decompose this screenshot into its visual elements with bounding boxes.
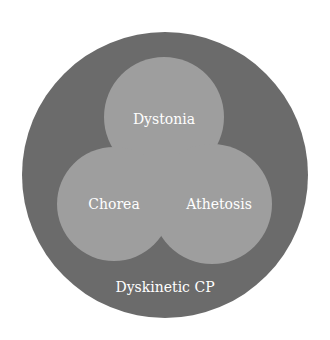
label-dystonia: Dystonia (133, 111, 195, 127)
label-dyskinetic-cp: Dyskinetic CP (115, 279, 214, 295)
venn-diagram: Dystonia Chorea Athetosis Dyskinetic CP (0, 0, 330, 340)
label-chorea: Chorea (88, 196, 139, 212)
label-athetosis: Athetosis (185, 196, 252, 212)
